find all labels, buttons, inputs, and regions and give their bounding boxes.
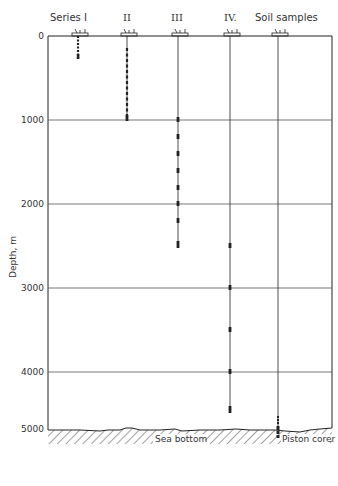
- sea-bottom: Sea bottom Piston corer: [48, 428, 336, 444]
- series-iv-string: [229, 36, 232, 413]
- y-axis-label: Depth, m: [8, 236, 18, 278]
- y-tick-3000: 3000: [21, 283, 44, 293]
- plot-frame: [48, 36, 332, 430]
- gridlines: [48, 120, 332, 372]
- column-label-series-iii: III: [171, 12, 183, 23]
- column-label-series-i: Series I: [50, 12, 87, 23]
- y-tick-0: 0: [38, 31, 44, 41]
- y-tick-4000: 4000: [21, 367, 44, 377]
- winch-icon-series-i: [72, 29, 88, 36]
- depth-sampling-diagram: Series I II III IV. Soil samples 0 1000 …: [0, 0, 338, 486]
- column-label-series-iv: IV.: [224, 12, 237, 23]
- winch-icon-series-iv: [224, 29, 240, 36]
- sea-bottom-label: Sea bottom: [155, 434, 207, 444]
- column-label-series-ii: II: [123, 12, 131, 23]
- y-tick-1000: 1000: [21, 115, 44, 125]
- winch-icon-series-ii: [121, 29, 137, 36]
- soil-sample-string: [277, 36, 280, 438]
- winch-icon-series-iii: [172, 29, 188, 36]
- series-iii-string: [177, 36, 180, 248]
- winch-icon-soil: [272, 29, 288, 36]
- column-label-soil-samples: Soil samples: [255, 12, 318, 23]
- y-axis-ticks: 0 1000 2000 3000 4000 5000: [21, 31, 44, 434]
- y-tick-2000: 2000: [21, 199, 44, 209]
- piston-corer-label: Piston corer: [282, 434, 336, 444]
- series-i-string: [77, 36, 80, 59]
- y-tick-5000: 5000: [21, 424, 44, 434]
- series-ii-string: [126, 36, 129, 121]
- winch-icons: [72, 29, 288, 36]
